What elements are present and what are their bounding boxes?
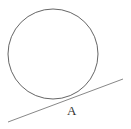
- point-label-a: A: [67, 104, 76, 117]
- tangent-line: [8, 79, 123, 122]
- diagram-canvas: [0, 0, 131, 129]
- circle: [8, 9, 98, 99]
